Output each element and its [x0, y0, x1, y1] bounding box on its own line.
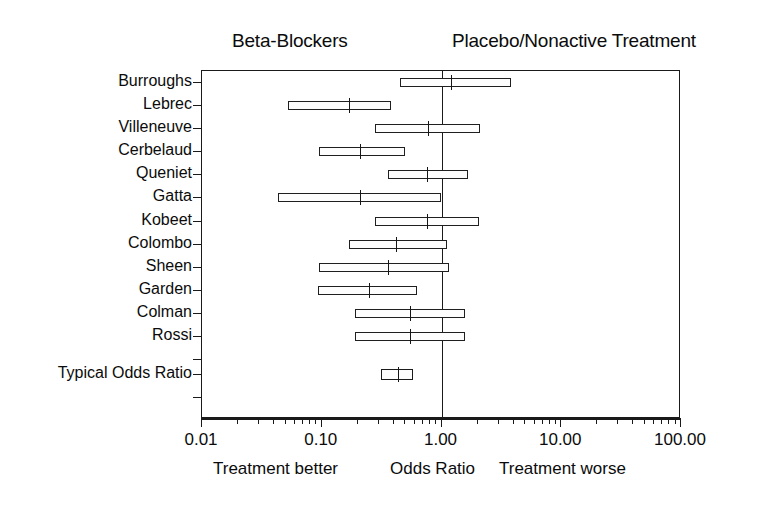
study-label-kobeet: Kobeet: [141, 212, 192, 228]
axis-tick-minor: [435, 418, 436, 424]
axis-tick-label: 100.00: [654, 430, 706, 450]
axis-tick-minor: [632, 418, 633, 424]
axis-tick-major: [201, 418, 202, 427]
row-tick: [193, 290, 202, 291]
axis-tick-minor: [285, 418, 286, 424]
axis-tick-minor: [477, 418, 478, 424]
axis-tick-major: [560, 418, 561, 427]
row-tick: [193, 267, 202, 268]
row-tick: [193, 374, 202, 375]
axis-tick-minor: [675, 418, 676, 424]
axis-tick-minor: [617, 418, 618, 424]
row-tick: [193, 313, 202, 314]
axis-tick-minor: [534, 418, 535, 424]
axis-tick-minor: [549, 418, 550, 424]
point-estimate-marker: [396, 237, 397, 252]
point-estimate-marker: [360, 144, 361, 159]
row-tick: [193, 244, 202, 245]
point-estimate-marker: [410, 306, 411, 321]
study-label-lebrec: Lebrec: [143, 96, 192, 112]
axis-tick-major: [321, 418, 322, 427]
axis-tick-minor: [258, 418, 259, 424]
row-tick: [193, 105, 202, 106]
point-estimate-marker: [427, 167, 428, 182]
axis-caption-treatment-worse: Treatment worse: [499, 459, 626, 479]
plot-area: [201, 70, 680, 418]
study-label-burroughs: Burroughs: [118, 73, 192, 89]
point-estimate-marker: [428, 121, 429, 136]
point-estimate-marker: [410, 329, 411, 344]
confidence-interval-bar: [318, 286, 417, 295]
axis-tick-minor: [315, 418, 316, 424]
axis-tick-minor: [429, 418, 430, 424]
row-tick-blank: [193, 359, 202, 360]
study-label-villeneuve: Villeneuve: [118, 119, 192, 135]
axis-tick-minor: [237, 418, 238, 424]
study-label-colombo: Colombo: [128, 235, 192, 251]
axis-tick-label: 10.00: [539, 430, 582, 450]
study-label-typical-odds-ratio: Typical Odds Ratio: [58, 365, 192, 381]
axis-tick-minor: [378, 418, 379, 424]
group-header-left: Beta-Blockers: [232, 30, 348, 52]
axis-caption-odds-ratio: Odds Ratio: [390, 459, 475, 479]
row-tick: [193, 128, 202, 129]
axis-tick-minor: [513, 418, 514, 424]
row-tick: [193, 221, 202, 222]
row-tick: [193, 82, 202, 83]
study-label-gatta: Gatta: [153, 188, 192, 204]
row-tick: [193, 174, 202, 175]
axis-tick-minor: [273, 418, 274, 424]
group-header-right: Placebo/Nonactive Treatment: [452, 30, 696, 52]
confidence-interval-bar: [288, 101, 391, 110]
point-estimate-marker: [369, 283, 370, 298]
axis-tick-label: 0.01: [184, 430, 217, 450]
point-estimate-marker: [388, 260, 389, 275]
confidence-interval-bar: [319, 263, 449, 272]
axis-tick-label: 1.00: [424, 430, 457, 450]
axis-tick-minor: [542, 418, 543, 424]
row-tick: [193, 197, 202, 198]
axis-tick-minor: [644, 418, 645, 424]
axis-tick-minor: [555, 418, 556, 424]
axis-tick-minor: [661, 418, 662, 424]
point-estimate-marker: [427, 214, 428, 229]
study-label-queniet: Queniet: [136, 165, 192, 181]
point-estimate-marker: [451, 75, 452, 90]
axis-tick-label: 0.10: [304, 430, 337, 450]
point-estimate-marker: [360, 190, 361, 205]
point-estimate-marker: [349, 98, 350, 113]
confidence-interval-bar: [349, 240, 447, 249]
axis-tick-minor: [414, 418, 415, 424]
study-label-sheen: Sheen: [146, 258, 192, 274]
axis-tick-minor: [668, 418, 669, 424]
row-tick: [193, 336, 202, 337]
confidence-interval-bar: [400, 78, 511, 87]
study-label-garden: Garden: [139, 281, 192, 297]
axis-tick-minor: [393, 418, 394, 424]
axis-tick-minor: [524, 418, 525, 424]
axis-tick-minor: [653, 418, 654, 424]
row-tick-blank: [193, 397, 202, 398]
axis-tick-minor: [357, 418, 358, 424]
axis-tick-minor: [309, 418, 310, 424]
study-label-rossi: Rossi: [152, 327, 192, 343]
axis-tick-major: [441, 418, 442, 427]
axis-tick-minor: [294, 418, 295, 424]
axis-tick-minor: [422, 418, 423, 424]
axis-tick-major: [680, 418, 681, 427]
confidence-interval-bar: [319, 147, 405, 156]
axis-caption-treatment-better: Treatment better: [213, 459, 338, 479]
forest-plot-figure: Beta-Blockers Placebo/Nonactive Treatmen…: [0, 0, 775, 506]
axis-tick-minor: [596, 418, 597, 424]
row-tick: [193, 151, 202, 152]
study-label-cerbelaud: Cerbelaud: [118, 142, 192, 158]
axis-tick-minor: [404, 418, 405, 424]
axis-tick-minor: [302, 418, 303, 424]
axis-tick-minor: [498, 418, 499, 424]
study-label-colman: Colman: [137, 304, 192, 320]
point-estimate-marker: [398, 367, 399, 382]
